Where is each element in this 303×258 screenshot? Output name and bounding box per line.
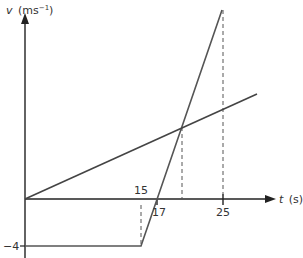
x-axis-arrow-icon [265, 195, 276, 203]
y-axis-label: v (ms−1) [6, 4, 53, 17]
velocity-time-graph: v (ms−1) t (s) 15 17 25 −4 [0, 0, 303, 258]
x-axis-label: t (s) [279, 193, 303, 206]
tick-label-25: 25 [216, 206, 230, 219]
series-steep-line [25, 10, 222, 246]
tick-label-15: 15 [134, 184, 148, 197]
tick-label-17: 17 [152, 206, 166, 219]
tick-label-neg4: −4 [3, 240, 19, 253]
